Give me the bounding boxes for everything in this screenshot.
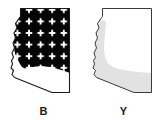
arizona-map-y	[82, 4, 163, 99]
panel-b: B	[0, 0, 81, 120]
panel-label-b: B	[0, 105, 81, 118]
arizona-map-b	[0, 4, 81, 99]
panel-label-y: Y	[82, 105, 163, 118]
figure-root: B Y	[0, 0, 163, 120]
panel-y: Y	[82, 0, 163, 120]
